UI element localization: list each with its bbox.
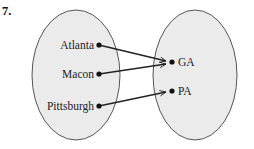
domain-element-pittsburgh: Pittsburgh xyxy=(47,100,102,113)
point-dot-icon xyxy=(96,42,101,47)
range-set-oval xyxy=(153,10,237,140)
element-label: Macon xyxy=(62,68,94,80)
point-dot-icon xyxy=(96,103,101,108)
point-dot-icon xyxy=(169,88,174,93)
mapping-diagram: 7. Atlanta Macon Pittsburgh GA PA xyxy=(0,0,254,149)
element-label: PA xyxy=(178,85,192,97)
element-label: GA xyxy=(178,56,195,68)
point-dot-icon xyxy=(169,59,174,64)
element-label: Pittsburgh xyxy=(47,100,94,113)
problem-number: 7. xyxy=(2,4,11,18)
point-dot-icon xyxy=(96,71,101,76)
element-label: Atlanta xyxy=(60,39,94,51)
